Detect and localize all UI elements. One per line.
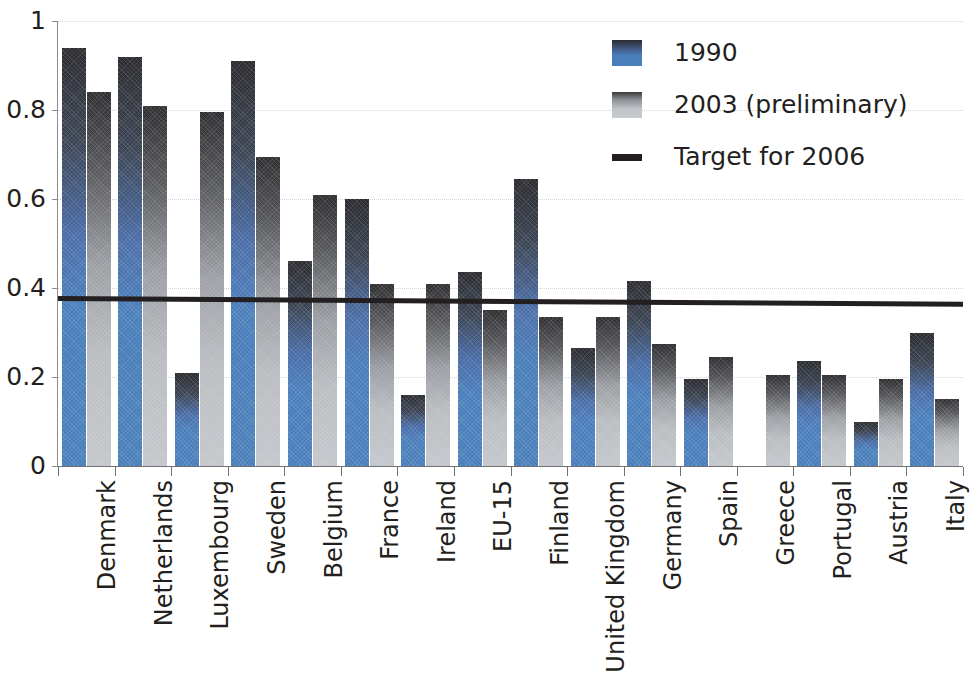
bar-2003 xyxy=(256,157,280,466)
legend-label-1990: 1990 xyxy=(674,34,738,72)
x-axis-tick-label: Luxembourg xyxy=(208,480,232,630)
x-axis-category-label: Luxembourg xyxy=(208,480,232,630)
y-axis-tick-label: 0.2 xyxy=(0,364,46,389)
x-axis-tick-label: Spain xyxy=(717,480,741,547)
bar-1990 xyxy=(910,333,934,467)
x-axis-category-label: Greece xyxy=(774,480,798,565)
y-axis-tick-mark xyxy=(52,199,58,200)
x-axis-tick-label: France xyxy=(378,480,402,560)
x-axis-category-label: Austria xyxy=(887,480,911,565)
x-axis-tick-mark xyxy=(567,467,568,476)
x-axis-tick-mark xyxy=(511,467,512,476)
bar-1990 xyxy=(684,379,708,466)
y-axis-tick-mark xyxy=(52,110,58,111)
x-axis-tick-mark xyxy=(454,467,455,476)
legend-item-target: Target for 2006 xyxy=(612,138,942,190)
x-axis-category-label: France xyxy=(378,480,402,560)
bar-2003 xyxy=(200,112,224,466)
bar-2003 xyxy=(935,399,959,466)
x-axis-tick-label: Austria xyxy=(887,480,911,565)
bar-1990 xyxy=(118,57,142,466)
x-axis-category-label: Spain xyxy=(717,480,741,547)
x-axis-tick-mark xyxy=(963,467,964,476)
y-axis-tick-label: 1 xyxy=(0,8,46,33)
bar-1990 xyxy=(401,395,425,466)
x-axis-tick-label: Greece xyxy=(774,480,798,565)
x-axis-tick-label: Ireland xyxy=(435,480,459,563)
gridline xyxy=(58,199,963,200)
bar-2003 xyxy=(483,310,507,466)
x-axis-tick-mark xyxy=(680,467,681,476)
x-axis-tick-label: Belgium xyxy=(322,480,346,578)
x-axis-tick-mark xyxy=(171,467,172,476)
bar-1990 xyxy=(627,281,651,466)
legend-item-1990: 1990 xyxy=(612,34,942,86)
bar-2003 xyxy=(539,317,563,466)
bar-2003 xyxy=(709,357,733,466)
x-axis-tick-mark xyxy=(284,467,285,476)
gridline xyxy=(58,288,963,289)
x-axis-tick-label: Denmark xyxy=(95,480,119,590)
bar-1990 xyxy=(345,199,369,466)
x-axis-category-label: Ireland xyxy=(435,480,459,563)
x-axis-category-label: Netherlands xyxy=(152,480,176,626)
bar-2003 xyxy=(313,195,337,466)
x-axis-tick-label: Italy xyxy=(944,480,968,532)
bar-2003 xyxy=(143,106,167,466)
x-axis-tick-label: United Kingdom xyxy=(604,480,628,673)
x-axis-tick-mark xyxy=(115,467,116,476)
x-axis-category-label: Germany xyxy=(661,480,685,590)
legend-label-target: Target for 2006 xyxy=(674,138,865,176)
x-axis-category-label: Finland xyxy=(548,480,572,566)
x-axis-tick-label: Germany xyxy=(661,480,685,590)
x-axis-category-label: Sweden xyxy=(265,480,289,575)
bar-2003 xyxy=(766,375,790,466)
x-axis-tick-mark xyxy=(397,467,398,476)
x-axis-category-label: Belgium xyxy=(322,480,346,578)
bar-1990 xyxy=(175,373,199,466)
y-axis-tick-label: 0.8 xyxy=(0,97,46,122)
x-axis-tick-label: EU-15 xyxy=(491,480,515,552)
x-axis-tick-mark xyxy=(906,467,907,476)
legend: 1990 2003 (preliminary) Target for 2006 xyxy=(612,34,942,190)
y-axis-line xyxy=(57,21,58,467)
y-axis-tick-mark xyxy=(52,377,58,378)
bar-2003 xyxy=(87,92,111,466)
x-axis-category-label: Italy xyxy=(944,480,968,532)
x-axis-tick-mark xyxy=(624,467,625,476)
x-axis-tick-mark xyxy=(228,467,229,476)
legend-swatch-2003-icon xyxy=(612,92,642,118)
x-axis-tick-label: Netherlands xyxy=(152,480,176,626)
legend-item-2003: 2003 (preliminary) xyxy=(612,86,942,138)
legend-swatch-target-icon xyxy=(612,154,642,161)
x-axis-tick-label: Sweden xyxy=(265,480,289,575)
legend-label-2003: 2003 (preliminary) xyxy=(674,86,907,124)
x-axis-category-label: Portugal xyxy=(831,480,855,579)
x-axis-category-label: Denmark xyxy=(95,480,119,590)
x-axis-category-label: EU-15 xyxy=(491,480,515,552)
bar-1990 xyxy=(231,61,255,466)
bar-1990 xyxy=(854,422,878,467)
x-axis-tick-mark xyxy=(793,467,794,476)
bar-2003 xyxy=(426,284,450,466)
legend-swatch-1990-icon xyxy=(612,40,642,66)
y-axis-tick-label: 0.4 xyxy=(0,275,46,300)
x-axis-tick-mark xyxy=(850,467,851,476)
bar-2003 xyxy=(822,375,846,466)
y-axis-tick-mark xyxy=(52,288,58,289)
x-axis-category-label: United Kingdom xyxy=(604,480,628,673)
bar-1990 xyxy=(514,179,538,466)
gridline xyxy=(58,21,963,22)
x-axis-tick-label: Finland xyxy=(548,480,572,566)
x-axis-tick-mark xyxy=(58,467,59,476)
y-axis-tick-mark xyxy=(52,21,58,22)
x-axis-tick-mark xyxy=(341,467,342,476)
bar-2003 xyxy=(370,284,394,466)
y-axis-tick-label: 0.6 xyxy=(0,186,46,211)
bar-2003 xyxy=(879,379,903,466)
x-axis-tick-mark xyxy=(737,467,738,476)
bar-1990 xyxy=(571,348,595,466)
bar-2003 xyxy=(652,344,676,466)
bar-1990 xyxy=(797,361,821,466)
